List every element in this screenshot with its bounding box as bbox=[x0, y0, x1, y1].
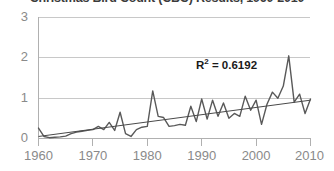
x-tick-marks bbox=[39, 138, 311, 146]
x-tick-label-1960: 1960 bbox=[16, 148, 62, 163]
data-series-line bbox=[39, 56, 311, 138]
y-tick-label-0: 0 bbox=[6, 130, 28, 145]
x-tick-label-2010: 2010 bbox=[287, 148, 333, 163]
x-tick-label-1970: 1970 bbox=[70, 148, 116, 163]
trendline bbox=[39, 100, 311, 136]
r-squared-suffix: = 0.6192 bbox=[209, 59, 257, 71]
y-tick-label-1: 1 bbox=[6, 90, 28, 105]
plot-area bbox=[0, 0, 334, 171]
y-tick-label-2: 2 bbox=[6, 49, 28, 64]
x-tick-label-1980: 1980 bbox=[124, 148, 170, 163]
chart-container: Christmas Bird Count (CBC) Results, 1960… bbox=[0, 0, 334, 171]
y-tick-label-3: 3 bbox=[6, 9, 28, 24]
x-tick-label-2000: 2000 bbox=[233, 148, 279, 163]
gridlines bbox=[38, 18, 310, 99]
x-tick-label-1990: 1990 bbox=[179, 148, 225, 163]
r-squared-annotation: R2 = 0.6192 bbox=[196, 57, 257, 71]
